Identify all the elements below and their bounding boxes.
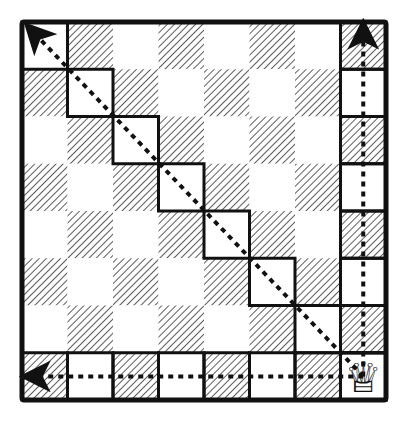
board-square	[295, 69, 341, 116]
board-square	[204, 164, 250, 211]
board-square	[250, 117, 296, 164]
board-square	[250, 69, 296, 116]
chessboard-diagram: ♕	[0, 0, 404, 422]
board-square	[113, 69, 159, 116]
board-square	[295, 258, 341, 305]
board-square	[250, 164, 296, 211]
board-square	[22, 69, 68, 116]
board-square	[159, 22, 205, 69]
board-square	[22, 164, 68, 211]
board-square	[113, 258, 159, 305]
board-square	[295, 211, 341, 258]
board-square	[159, 117, 205, 164]
board-square	[68, 258, 114, 305]
board-square	[22, 22, 68, 69]
queen-icon: ♕	[344, 353, 382, 402]
board-square	[68, 164, 114, 211]
board-square	[22, 306, 68, 353]
board-square	[250, 211, 296, 258]
board-square	[204, 306, 250, 353]
board-square	[113, 22, 159, 69]
board-square	[295, 164, 341, 211]
board-square	[68, 211, 114, 258]
board-square	[22, 211, 68, 258]
board-square	[22, 258, 68, 305]
board-square	[250, 306, 296, 353]
board-square	[159, 69, 205, 116]
board-square	[68, 306, 114, 353]
board-square	[159, 258, 205, 305]
board-square	[204, 69, 250, 116]
board-square	[159, 211, 205, 258]
board-square	[204, 258, 250, 305]
board-square	[204, 22, 250, 69]
board-square	[159, 306, 205, 353]
board-square	[113, 306, 159, 353]
board-square	[295, 117, 341, 164]
board-square	[113, 164, 159, 211]
board-square	[22, 117, 68, 164]
board-square	[68, 22, 114, 69]
board-square	[68, 117, 114, 164]
board-square	[295, 22, 341, 69]
board-square	[204, 117, 250, 164]
board-square	[113, 211, 159, 258]
board-square	[250, 22, 296, 69]
